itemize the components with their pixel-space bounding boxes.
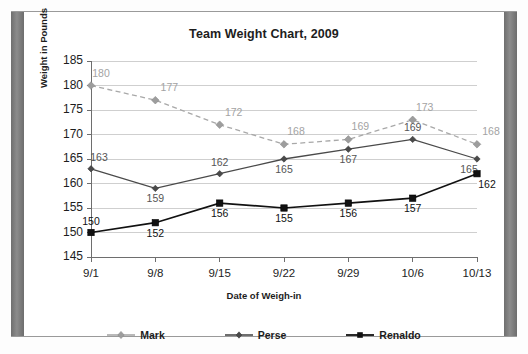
data-point-perse bbox=[152, 185, 158, 191]
y-tick-label: 160 bbox=[63, 176, 83, 190]
data-point-perse bbox=[345, 146, 351, 152]
data-label-renaldo: 152 bbox=[147, 227, 165, 239]
legend-label-perse: Perse bbox=[258, 329, 287, 341]
y-tick-label: 145 bbox=[63, 249, 83, 263]
chart-frame: Team Weight Chart, 2009 Weight in Pounds… bbox=[11, 11, 517, 337]
data-label-mark: 177 bbox=[161, 81, 179, 93]
data-label-mark: 172 bbox=[225, 106, 243, 118]
page-background: Team Weight Chart, 2009 Weight in Pounds… bbox=[0, 0, 528, 354]
x-tick-label: 9/15 bbox=[208, 267, 230, 279]
legend-item-mark[interactable]: Mark bbox=[107, 329, 165, 341]
data-label-renaldo: 162 bbox=[478, 178, 496, 190]
chart-canvas: Team Weight Chart, 2009 Weight in Pounds… bbox=[24, 12, 504, 336]
x-tick-label: 9/22 bbox=[273, 267, 295, 279]
data-label-renaldo: 155 bbox=[275, 212, 293, 224]
data-label-perse: 159 bbox=[147, 192, 165, 204]
x-tick-label: 10/13 bbox=[463, 267, 492, 279]
data-label-mark: 180 bbox=[92, 67, 110, 79]
data-point-perse bbox=[216, 171, 222, 177]
data-point-mark bbox=[152, 96, 160, 104]
data-point-mark bbox=[280, 141, 288, 149]
y-tick-label: 150 bbox=[63, 225, 83, 239]
legend-label-mark: Mark bbox=[140, 329, 165, 341]
chart-legend: Mark Perse Renaldo bbox=[24, 325, 504, 345]
data-label-renaldo: 156 bbox=[340, 207, 358, 219]
y-tick-label: 185 bbox=[63, 53, 83, 67]
data-point-mark bbox=[216, 121, 224, 129]
data-label-mark: 168 bbox=[287, 125, 305, 137]
data-point-perse bbox=[474, 156, 480, 162]
series-line-mark bbox=[91, 86, 477, 145]
frame-bar-right bbox=[504, 12, 517, 336]
data-label-mark: 168 bbox=[482, 125, 500, 137]
data-label-perse: 165 bbox=[275, 163, 293, 175]
data-point-mark bbox=[345, 136, 353, 144]
data-point-perse bbox=[281, 156, 287, 162]
data-label-renaldo: 150 bbox=[82, 215, 100, 227]
data-point-renaldo bbox=[152, 220, 158, 226]
legend-label-renaldo: Renaldo bbox=[379, 329, 420, 341]
y-tick-label: 165 bbox=[63, 151, 83, 165]
data-point-renaldo bbox=[345, 200, 351, 206]
data-label-perse: 167 bbox=[340, 153, 358, 165]
data-point-renaldo bbox=[409, 195, 415, 201]
data-label-perse: 163 bbox=[90, 151, 108, 163]
data-point-mark bbox=[473, 141, 481, 149]
legend-item-renaldo[interactable]: Renaldo bbox=[346, 329, 420, 341]
x-tick-label: 9/8 bbox=[147, 267, 163, 279]
legend-item-perse[interactable]: Perse bbox=[225, 329, 287, 341]
y-tick-label: 180 bbox=[63, 78, 83, 92]
data-point-renaldo bbox=[216, 200, 222, 206]
data-label-perse: 162 bbox=[211, 156, 229, 168]
legend-marker-mark-icon bbox=[107, 330, 135, 340]
data-label-renaldo: 157 bbox=[404, 202, 422, 214]
data-label-perse: 169 bbox=[404, 121, 422, 133]
x-tick-label: 9/1 bbox=[83, 267, 99, 279]
data-point-renaldo bbox=[88, 229, 94, 235]
plot-area: 1451501551601651701751801859/19/89/159/2… bbox=[24, 12, 504, 312]
y-tick-label: 175 bbox=[63, 102, 83, 116]
data-point-perse bbox=[88, 166, 94, 172]
data-label-mark: 169 bbox=[352, 120, 370, 132]
data-label-mark: 173 bbox=[416, 101, 434, 113]
frame-bar-left bbox=[11, 12, 24, 336]
y-tick-label: 155 bbox=[63, 200, 83, 214]
data-point-renaldo bbox=[474, 171, 480, 177]
data-point-mark bbox=[87, 82, 95, 90]
y-tick-label: 170 bbox=[63, 127, 83, 141]
data-label-renaldo: 156 bbox=[211, 207, 229, 219]
x-tick-label: 9/29 bbox=[337, 267, 359, 279]
x-tick-label: 10/6 bbox=[401, 267, 423, 279]
data-point-renaldo bbox=[281, 205, 287, 211]
data-point-perse bbox=[409, 136, 415, 142]
legend-marker-renaldo-icon bbox=[346, 330, 374, 340]
legend-marker-perse-icon bbox=[225, 330, 253, 340]
